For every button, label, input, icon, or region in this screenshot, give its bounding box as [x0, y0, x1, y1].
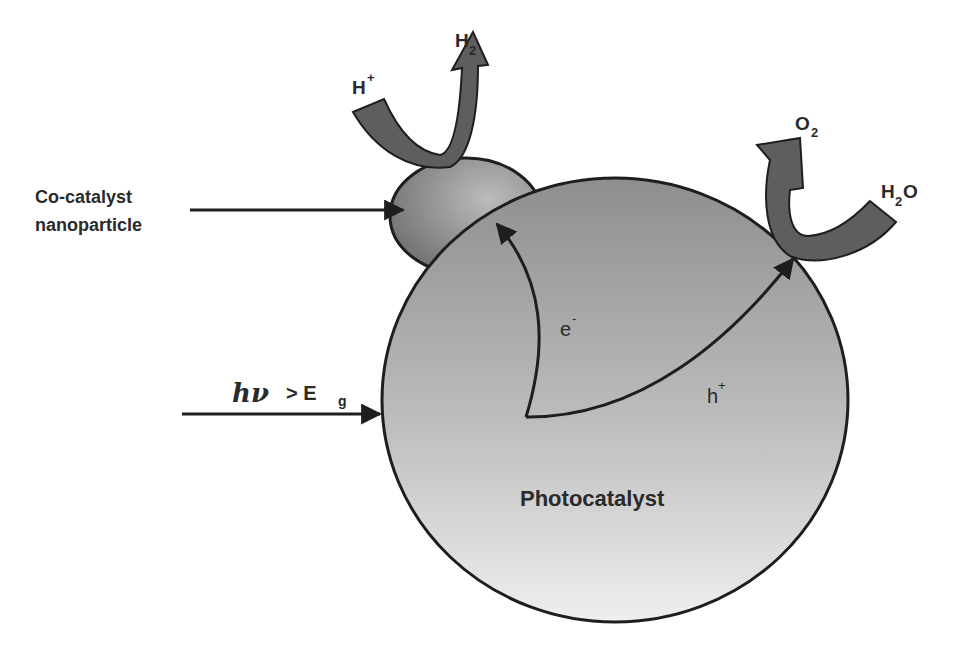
electron-label: e [560, 318, 571, 340]
proton-label: H [352, 77, 366, 98]
hole-superscript: + [718, 378, 726, 393]
photocatalysis-diagram: Co-catalyst nanoparticle hν > E g Photoc… [0, 0, 956, 654]
proton-superscript: + [367, 70, 375, 85]
water-subscript: 2 [895, 194, 902, 209]
oxygen-evolution-arrow [757, 138, 896, 260]
water-label-h: H [881, 181, 895, 202]
photon-label: hν [232, 378, 269, 408]
oxygen-subscript: 2 [811, 125, 818, 140]
hole-label: h [707, 385, 718, 407]
photon-condition-subscript: g [338, 393, 347, 409]
hydrogen-subscript: 2 [469, 43, 476, 58]
electron-superscript: - [572, 311, 576, 326]
photon-condition-label: > E [286, 382, 317, 404]
hydrogen-evolution-arrow [353, 32, 488, 168]
photocatalyst-label: Photocatalyst [520, 486, 665, 511]
cocatalyst-label-line1: Co-catalyst [35, 187, 132, 207]
water-label-o: O [903, 181, 918, 202]
cocatalyst-label-line2: nanoparticle [35, 215, 142, 235]
oxygen-label: O [795, 113, 810, 134]
hydrogen-label: H [455, 30, 469, 51]
